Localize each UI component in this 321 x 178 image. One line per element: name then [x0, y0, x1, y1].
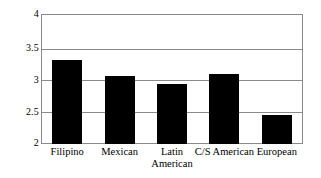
x-tick-line-2: American	[151, 158, 192, 170]
bar-slot-cs-american	[198, 14, 250, 144]
x-axis: Filipino Mexican Latin American C/S Amer…	[41, 146, 303, 178]
bar-mexican	[105, 76, 135, 144]
x-tick-label-mexican: Mexican	[101, 146, 138, 158]
y-tick-label-3-5: 3.5	[1, 43, 39, 53]
y-tick-label-2-5: 2.5	[1, 107, 39, 117]
x-tick-label-cs-american: C/S American	[195, 146, 254, 158]
bar-slot-latin-american	[146, 14, 198, 144]
bar-slot-mexican	[93, 14, 145, 144]
bar-european	[262, 115, 292, 144]
x-tick-line-1: Filipino	[51, 146, 84, 157]
x-tick-label-european: European	[257, 146, 297, 158]
bar-slot-european	[251, 14, 303, 144]
bar-latin-american	[157, 84, 187, 144]
bar-filipino	[52, 60, 82, 144]
x-tick-line-1: European	[257, 146, 297, 157]
y-tick-label-3: 3	[1, 75, 39, 85]
bar-slot-filipino	[41, 14, 93, 144]
bar-cs-american	[209, 74, 239, 144]
x-tick-line-1: Mexican	[101, 146, 138, 157]
y-axis: 4 3.5 3 2.5 2	[0, 0, 39, 178]
bar-chart: 4 3.5 3 2.5 2 Filipino Mexi	[0, 0, 321, 178]
x-tick-line-1: Latin	[161, 146, 183, 157]
y-tick-label-4: 4	[1, 9, 39, 19]
y-tick-label-2: 2	[1, 138, 39, 148]
x-tick-line-1: C/S American	[195, 146, 254, 157]
bars-layer	[41, 14, 303, 144]
x-tick-label-latin-american: Latin American	[151, 146, 192, 170]
x-tick-label-filipino: Filipino	[51, 146, 84, 158]
